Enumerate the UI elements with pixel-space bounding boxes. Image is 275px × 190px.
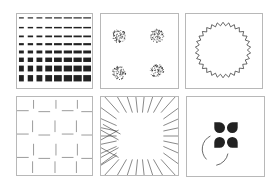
dash-block (83, 51, 91, 54)
dash-block (28, 17, 33, 18)
noisy-inducer (113, 66, 127, 80)
dash-block (36, 36, 42, 38)
dash-block (45, 27, 52, 28)
pacman-inducer (227, 137, 238, 148)
panel-pacman-square (186, 96, 265, 177)
dash-block (28, 58, 33, 62)
zigzag-path (195, 22, 250, 78)
offset-lines-graphic (17, 97, 92, 175)
dash-block (19, 75, 24, 81)
pacman-inducer (214, 137, 225, 148)
dash-block (73, 58, 81, 62)
dash-block (83, 27, 91, 28)
dash-block (54, 17, 62, 18)
dash-block (73, 17, 81, 18)
radial-lines-graphic (101, 97, 178, 175)
dash-block (36, 51, 42, 54)
dash-block (83, 36, 91, 38)
noisy-inducer (113, 29, 126, 42)
dash-block (19, 58, 24, 62)
dash-block (28, 27, 33, 28)
dash-block (64, 51, 72, 54)
dash-block (19, 66, 24, 72)
dash-block (45, 17, 52, 18)
dash-block (54, 66, 62, 72)
dash-block (45, 75, 52, 81)
dash-block (45, 51, 52, 54)
dash-block (36, 66, 42, 72)
dash-block (54, 75, 62, 81)
pacman-square-graphic (187, 97, 264, 176)
dash-block (83, 75, 91, 81)
dash-block (73, 75, 81, 81)
radial-lines (101, 97, 178, 175)
panel-noisy-inducers (100, 13, 179, 89)
panel-zigzag-ring (185, 13, 263, 89)
dash-block (28, 36, 33, 38)
dash-block (19, 43, 24, 45)
dash-block (19, 17, 24, 18)
panel-radial-lines (100, 96, 179, 176)
dash-block (73, 66, 81, 72)
dash-block (64, 27, 72, 28)
dash-block (64, 36, 72, 38)
dash-block (19, 51, 24, 54)
dash-block (64, 58, 72, 62)
dash-block (45, 36, 52, 38)
noisy-inducer (150, 29, 164, 43)
dash-block (64, 43, 72, 45)
dash-block (83, 17, 91, 18)
dash-block (28, 75, 33, 81)
offset-line-grid (17, 100, 92, 173)
partial-arc (216, 154, 228, 166)
dash-block (83, 66, 91, 72)
dash-block (45, 66, 52, 72)
dash-block (73, 27, 81, 28)
dash-block (28, 66, 33, 72)
dash-block (64, 17, 72, 18)
dash-block (83, 58, 91, 62)
zigzag-ring-graphic (186, 14, 262, 88)
dash-block (36, 75, 42, 81)
dash-block (54, 27, 62, 28)
noisy-inducer (150, 64, 164, 77)
dash-block (73, 51, 81, 54)
dash-block (36, 17, 42, 18)
dash-block (36, 27, 42, 28)
dash-block (36, 58, 42, 62)
dash-block (45, 58, 52, 62)
dash-block (54, 58, 62, 62)
panel-offset-lines (16, 96, 93, 176)
dash-block (64, 66, 72, 72)
partial-arc (202, 136, 210, 159)
panel-dash-grid (16, 13, 93, 89)
dash-block (19, 36, 24, 38)
dash-block (19, 27, 24, 28)
dash-block (54, 51, 62, 54)
dash-block (54, 43, 62, 45)
pacman-inducer (227, 122, 238, 133)
dash-block (28, 43, 33, 45)
dash-block (45, 43, 52, 45)
dash-block (73, 36, 81, 38)
dash-block (36, 43, 42, 45)
dash-block (64, 75, 72, 81)
dash-block (73, 43, 81, 45)
dash-block (83, 43, 91, 45)
dash-block (28, 51, 33, 54)
dash-grid-graphic (17, 14, 92, 88)
dash-block (54, 36, 62, 38)
noisy-inducers-graphic (101, 14, 178, 88)
pacman-inducer (214, 122, 225, 133)
